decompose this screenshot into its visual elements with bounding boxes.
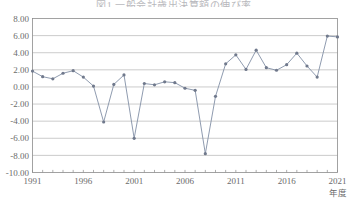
data-point-marker: [102, 120, 105, 123]
data-point-marker: [336, 35, 339, 38]
y-tick-label: -8.00: [10, 151, 29, 161]
plot-area: 8.006.004.002.000.00-2.00-4.00-6.00-8.00…: [0, 0, 348, 208]
data-point-marker: [275, 69, 278, 72]
data-point-marker: [61, 72, 64, 75]
plot-frame: [33, 19, 338, 173]
data-point-marker: [31, 70, 34, 73]
data-point-marker: [316, 76, 319, 79]
y-tick-label: -2.00: [10, 99, 29, 109]
y-tick-label: 8.00: [13, 14, 29, 24]
data-point-marker: [122, 73, 125, 76]
data-point-marker: [173, 81, 176, 84]
data-point-marker: [326, 34, 329, 37]
data-point-marker: [163, 80, 166, 83]
y-tick-label: 2.00: [13, 65, 29, 75]
y-tick-label: -6.00: [10, 133, 29, 143]
data-point-marker: [224, 62, 227, 65]
data-point-marker: [51, 77, 54, 80]
y-tick-label: 0.00: [13, 82, 29, 92]
chart-figure: 図1 一般会計歳出決算額の伸び率 8.006.004.002.000.00-2.…: [0, 0, 348, 208]
x-axis-tick-labels: 1991199620012006201120162021: [24, 176, 347, 186]
x-tick-label: 1996: [74, 176, 93, 186]
series-line: [33, 36, 338, 154]
data-point-marker: [153, 83, 156, 86]
data-point-marker: [112, 83, 115, 86]
y-tick-label: 4.00: [13, 48, 29, 58]
x-tick-label: 2016: [278, 176, 297, 186]
data-point-marker: [255, 49, 258, 52]
data-point-marker: [133, 137, 136, 140]
data-point-marker: [92, 84, 95, 87]
data-point-marker: [204, 152, 207, 155]
y-tick-label: -4.00: [10, 116, 29, 126]
data-point-marker: [285, 63, 288, 66]
x-tick-label: 2006: [176, 176, 195, 186]
data-point-marker: [82, 76, 85, 79]
data-point-marker: [143, 82, 146, 85]
line-chart-svg: 8.006.004.002.000.00-2.00-4.00-6.00-8.00…: [0, 0, 348, 208]
data-point-marker: [72, 69, 75, 72]
y-tick-label: 6.00: [13, 31, 29, 41]
y-axis-tick-labels: 8.006.004.002.000.00-2.00-4.00-6.00-8.00…: [6, 14, 30, 178]
data-point-marker: [244, 68, 247, 71]
x-tick-label: 1991: [24, 176, 42, 186]
data-point-marker: [214, 95, 217, 98]
data-point-marker: [295, 52, 298, 55]
x-axis-label: 年度: [329, 188, 347, 198]
data-point-marker: [194, 89, 197, 92]
data-point-marker: [234, 53, 237, 56]
x-tick-label: 2021: [329, 176, 347, 186]
data-point-marker: [305, 64, 308, 67]
gridlines-group: [33, 36, 338, 156]
data-point-marker: [265, 66, 268, 69]
x-tick-label: 2001: [125, 176, 143, 186]
data-point-marker: [41, 75, 44, 78]
x-tick-label: 2011: [227, 176, 245, 186]
data-point-marker: [183, 87, 186, 90]
